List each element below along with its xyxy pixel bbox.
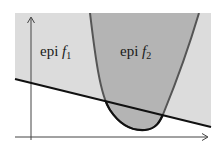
label-epi-f2-prefix: epi [120, 43, 142, 59]
epigraph-diagram: epi f1 epi f2 [0, 0, 221, 144]
label-epi-f1-prefix: epi [40, 43, 62, 59]
label-epi-f2-sub: 2 [146, 50, 151, 61]
label-epi-f1-sub: 1 [66, 50, 71, 61]
